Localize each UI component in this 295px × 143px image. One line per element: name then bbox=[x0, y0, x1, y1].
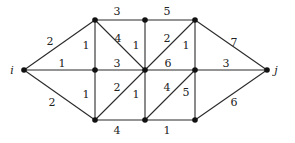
edge-weight-label: 4 bbox=[115, 32, 122, 45]
node-B bbox=[142, 17, 148, 23]
edge-weight-label: 6 bbox=[231, 96, 238, 109]
node-label-j: j bbox=[271, 64, 278, 77]
edge-K-j bbox=[195, 70, 267, 120]
node-E bbox=[142, 67, 148, 73]
edge-weight-label: 3 bbox=[114, 5, 121, 18]
edge-weight-label: 5 bbox=[164, 5, 171, 18]
edge-weight-label: 1 bbox=[83, 88, 90, 101]
node-j bbox=[264, 67, 270, 73]
node-label-i: i bbox=[10, 64, 14, 77]
edge-weight-label: 1 bbox=[183, 39, 190, 52]
edge-weight-label: 1 bbox=[83, 39, 90, 52]
edge-weight-label: 2 bbox=[47, 35, 54, 48]
node-H bbox=[142, 117, 148, 123]
edge-weight-label: 1 bbox=[133, 39, 140, 52]
weights-layer: 2123514121736312145641 bbox=[47, 5, 238, 137]
node-G bbox=[92, 117, 98, 123]
graph-diagram: 2123514121736312145641 ij bbox=[0, 0, 295, 143]
edge-weight-label: 1 bbox=[133, 88, 140, 101]
edge-weight-label: 3 bbox=[223, 57, 230, 70]
edge-weight-label: 6 bbox=[165, 57, 172, 70]
edge-weight-label: 2 bbox=[164, 32, 171, 45]
node-A bbox=[92, 17, 98, 23]
graph-canvas: 2123514121736312145641 ij bbox=[0, 0, 295, 143]
node-D bbox=[92, 67, 98, 73]
node-i bbox=[21, 67, 27, 73]
edge-weight-label: 2 bbox=[114, 81, 121, 94]
edge-weight-label: 1 bbox=[59, 57, 66, 70]
edge-weight-label: 1 bbox=[164, 124, 171, 137]
node-F bbox=[192, 67, 198, 73]
edge-weight-label: 4 bbox=[164, 81, 171, 94]
edge-weight-label: 2 bbox=[49, 96, 56, 109]
edge-weight-label: 3 bbox=[114, 57, 121, 70]
edge-weight-label: 7 bbox=[231, 36, 238, 49]
node-C bbox=[192, 17, 198, 23]
node-K bbox=[192, 117, 198, 123]
edge-weight-label: 4 bbox=[114, 124, 121, 137]
edge-weight-label: 5 bbox=[183, 86, 190, 99]
